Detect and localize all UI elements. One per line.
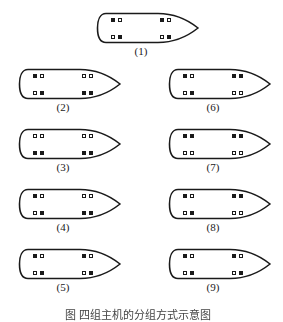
hull-outline-icon bbox=[18, 248, 124, 280]
empty-square-icon bbox=[239, 254, 243, 258]
empty-square-icon bbox=[89, 134, 93, 138]
empty-square-icon bbox=[232, 91, 236, 95]
filled-square-icon bbox=[190, 271, 194, 275]
figure-caption: 图 四组主机的分组方式示意图 bbox=[65, 306, 235, 316]
empty-square-icon bbox=[89, 254, 93, 258]
filled-square-icon bbox=[190, 134, 194, 138]
filled-square-icon bbox=[40, 211, 44, 215]
filled-square-icon bbox=[232, 134, 236, 138]
empty-square-icon bbox=[239, 151, 243, 155]
empty-square-icon bbox=[190, 151, 194, 155]
empty-square-icon bbox=[239, 211, 243, 215]
filled-square-icon bbox=[183, 194, 187, 198]
filled-square-icon bbox=[183, 74, 187, 78]
filled-square-icon bbox=[33, 151, 37, 155]
filled-square-icon bbox=[232, 74, 236, 78]
ship-diagram-6 bbox=[168, 68, 272, 100]
hull-outline-icon bbox=[168, 68, 274, 100]
empty-square-icon bbox=[232, 271, 236, 275]
filled-square-icon bbox=[89, 271, 93, 275]
filled-square-icon bbox=[239, 194, 243, 198]
empty-square-icon bbox=[89, 194, 93, 198]
filled-square-icon bbox=[239, 74, 243, 78]
filled-square-icon bbox=[40, 271, 44, 275]
filled-square-icon bbox=[111, 18, 115, 22]
filled-square-icon bbox=[82, 211, 86, 215]
empty-square-icon bbox=[82, 134, 86, 138]
ship-diagram-2 bbox=[18, 68, 122, 100]
filled-square-icon bbox=[89, 211, 93, 215]
filled-square-icon bbox=[33, 74, 37, 78]
empty-square-icon bbox=[33, 91, 37, 95]
empty-square-icon bbox=[33, 211, 37, 215]
ship-diagram-4 bbox=[18, 188, 122, 220]
empty-square-icon bbox=[40, 194, 44, 198]
empty-square-icon bbox=[183, 91, 187, 95]
empty-square-icon bbox=[82, 271, 86, 275]
ship-diagram-9 bbox=[168, 248, 272, 280]
ship-diagram-5 bbox=[18, 248, 122, 280]
ship-label-8: (8) bbox=[193, 221, 233, 233]
filled-square-icon bbox=[190, 211, 194, 215]
filled-square-icon bbox=[82, 91, 86, 95]
ship-label-6: (6) bbox=[193, 101, 233, 113]
empty-square-icon bbox=[89, 74, 93, 78]
filled-square-icon bbox=[89, 151, 93, 155]
empty-square-icon bbox=[232, 151, 236, 155]
hull-outline-icon bbox=[168, 128, 274, 160]
empty-square-icon bbox=[40, 74, 44, 78]
filled-square-icon bbox=[118, 35, 122, 39]
ship-label-4: (4) bbox=[43, 221, 83, 233]
empty-square-icon bbox=[82, 194, 86, 198]
ship-label-7: (7) bbox=[193, 161, 233, 173]
filled-square-icon bbox=[82, 151, 86, 155]
empty-square-icon bbox=[239, 91, 243, 95]
hull-outline-icon bbox=[96, 12, 202, 44]
filled-square-icon bbox=[239, 271, 243, 275]
hull-outline-icon bbox=[168, 188, 274, 220]
filled-square-icon bbox=[232, 254, 236, 258]
empty-square-icon bbox=[167, 18, 171, 22]
ship-diagram-7 bbox=[168, 128, 272, 160]
filled-square-icon bbox=[89, 91, 93, 95]
hull-outline-icon bbox=[168, 248, 274, 280]
ship-label-1: (1) bbox=[121, 45, 161, 57]
ship-label-2: (2) bbox=[43, 101, 83, 113]
hull-outline-icon bbox=[18, 68, 124, 100]
filled-square-icon bbox=[40, 91, 44, 95]
empty-square-icon bbox=[160, 35, 164, 39]
filled-square-icon bbox=[167, 35, 171, 39]
ship-label-5: (5) bbox=[43, 281, 83, 293]
ship-diagram-8 bbox=[168, 188, 272, 220]
empty-square-icon bbox=[190, 74, 194, 78]
empty-square-icon bbox=[111, 35, 115, 39]
empty-square-icon bbox=[232, 211, 236, 215]
ship-diagram-1 bbox=[96, 12, 200, 44]
empty-square-icon bbox=[40, 254, 44, 258]
filled-square-icon bbox=[82, 254, 86, 258]
empty-square-icon bbox=[183, 211, 187, 215]
hull-outline-icon bbox=[18, 128, 124, 160]
filled-square-icon bbox=[190, 91, 194, 95]
hull-outline-icon bbox=[18, 188, 124, 220]
empty-square-icon bbox=[183, 271, 187, 275]
filled-square-icon bbox=[183, 134, 187, 138]
empty-square-icon bbox=[118, 18, 122, 22]
empty-square-icon bbox=[190, 194, 194, 198]
empty-square-icon bbox=[183, 151, 187, 155]
filled-square-icon bbox=[160, 18, 164, 22]
ship-label-3: (3) bbox=[43, 161, 83, 173]
empty-square-icon bbox=[33, 271, 37, 275]
empty-square-icon bbox=[40, 134, 44, 138]
ship-label-9: (9) bbox=[193, 281, 233, 293]
empty-square-icon bbox=[190, 254, 194, 258]
ship-diagram-3 bbox=[18, 128, 122, 160]
filled-square-icon bbox=[239, 134, 243, 138]
empty-square-icon bbox=[33, 134, 37, 138]
filled-square-icon bbox=[33, 194, 37, 198]
empty-square-icon bbox=[82, 74, 86, 78]
filled-square-icon bbox=[232, 194, 236, 198]
filled-square-icon bbox=[40, 151, 44, 155]
filled-square-icon bbox=[33, 254, 37, 258]
filled-square-icon bbox=[183, 254, 187, 258]
